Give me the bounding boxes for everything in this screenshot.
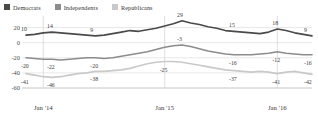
data-label-democrats: 15 <box>229 22 235 28</box>
data-label-independents: -16 <box>229 60 237 66</box>
x-tick-label: Jan '16 <box>257 104 297 111</box>
gridlines <box>22 28 312 88</box>
data-label-republicans: -38 <box>90 76 98 82</box>
legend-swatch-icon <box>55 4 61 10</box>
data-label-republicans: -42 <box>304 79 312 85</box>
data-label-democrats: 14 <box>47 23 53 29</box>
y-tick-label: -20 <box>0 54 20 61</box>
legend-swatch-icon <box>112 4 118 10</box>
data-label-independents: -16 <box>304 60 312 66</box>
data-label-independents: -12 <box>272 57 280 63</box>
legend-item-democrats[interactable]: Democrats <box>4 4 41 11</box>
data-label-democrats: 9 <box>90 27 93 33</box>
data-label-democrats: 29 <box>177 12 183 18</box>
y-tick-label: 0 <box>0 39 20 46</box>
data-label-republicans: -37 <box>229 76 237 82</box>
data-label-republicans: -41 <box>272 79 280 85</box>
legend-label-republicans: Republicans <box>121 4 153 11</box>
x-tick-label: Jan '14 <box>23 104 63 111</box>
y-tick-label: 20 <box>0 24 20 31</box>
data-label-democrats: 9 <box>304 27 307 33</box>
data-label-republicans: -41 <box>21 79 29 85</box>
data-label-democrats: 10 <box>21 26 27 32</box>
legend-item-independents[interactable]: Independents <box>55 4 98 11</box>
data-label-independents: -20 <box>21 63 29 69</box>
x-tick-label: Jan '15 <box>145 104 185 111</box>
legend-swatch-icon <box>4 4 10 10</box>
series-line-democrats <box>26 21 312 36</box>
line-chart: Democrats Independents Republicans 200-2… <box>0 0 318 123</box>
data-label-independents: -22 <box>47 64 55 70</box>
data-label-independents: -20 <box>90 63 98 69</box>
legend-label-democrats: Democrats <box>13 4 41 11</box>
chart-legend: Democrats Independents Republicans <box>4 1 153 13</box>
series-line-republicans <box>26 62 312 78</box>
y-tick-label: -40 <box>0 69 20 76</box>
series-lines <box>26 21 312 78</box>
data-label-republicans: -46 <box>47 82 55 88</box>
legend-item-republicans[interactable]: Republicans <box>112 4 153 11</box>
data-label-democrats: 18 <box>272 20 278 26</box>
data-label-independents: -3 <box>177 36 182 42</box>
legend-label-independents: Independents <box>64 4 98 11</box>
y-tick-label: -60 <box>0 84 20 91</box>
data-label-republicans: -25 <box>160 67 168 73</box>
